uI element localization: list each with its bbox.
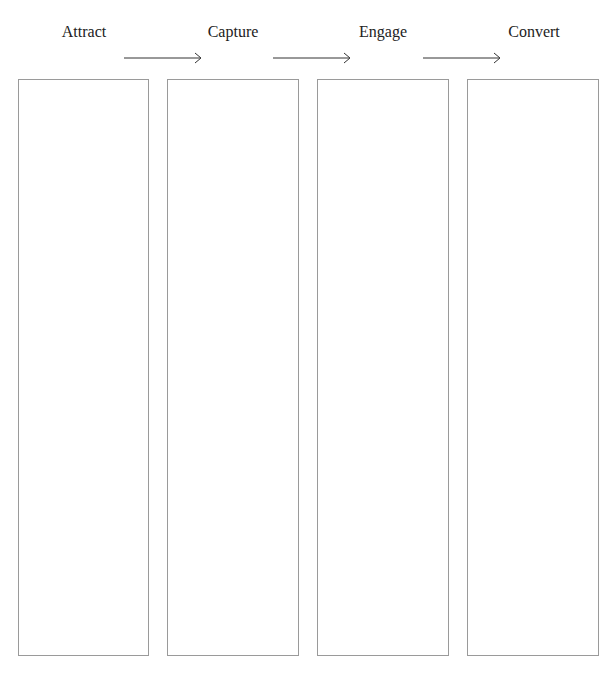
stage-box-convert — [467, 79, 599, 656]
stage-label-capture: Capture — [168, 23, 298, 41]
stage-box-capture — [167, 79, 299, 656]
arrow-right-icon — [124, 52, 204, 64]
stage-box-attract — [18, 79, 149, 656]
stage-label-convert: Convert — [469, 23, 599, 41]
stage-label-attract: Attract — [19, 23, 149, 41]
stage-label-engage: Engage — [318, 23, 448, 41]
arrow-right-icon — [423, 52, 503, 64]
arrow-right-icon — [273, 52, 353, 64]
stage-box-engage — [317, 79, 449, 656]
